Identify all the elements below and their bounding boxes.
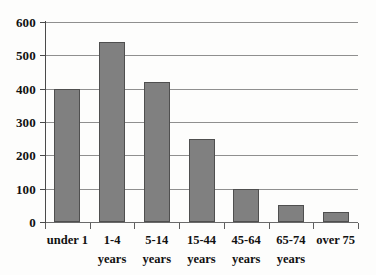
y-axis-tick-label: 500 <box>2 49 36 62</box>
bar <box>233 189 259 222</box>
bar <box>278 205 304 222</box>
x-axis-category-line1: under 1 <box>47 233 88 247</box>
x-axis-tick-mark <box>269 223 270 229</box>
x-axis-category-label: over 75 <box>313 231 358 250</box>
x-axis-category-line2: years <box>90 250 135 269</box>
x-axis-category-label: 5-14years <box>134 231 179 269</box>
x-axis-category-line1: 15-44 <box>187 233 216 247</box>
bars-layer <box>45 22 358 222</box>
x-axis-category-label: 1-4years <box>90 231 135 269</box>
x-axis-tick-mark <box>134 223 135 229</box>
y-axis-tick-label: 400 <box>2 83 36 96</box>
x-axis-category-line2: years <box>134 250 179 269</box>
x-axis-category-line1: 45-64 <box>232 233 261 247</box>
x-axis-category-label: under 1 <box>45 231 90 250</box>
x-axis-category-label: 15-44years <box>179 231 224 269</box>
bar-chart: 6005004003002001000 under 11-4years5-14y… <box>0 0 376 275</box>
x-axis-category-line2: years <box>269 250 314 269</box>
x-axis-category-line1: over 75 <box>316 233 355 247</box>
x-axis-category-line1: 65-74 <box>276 233 305 247</box>
bar <box>54 89 80 222</box>
x-axis-category-line2: years <box>179 250 224 269</box>
bar <box>323 212 349 222</box>
x-axis-category-line1: 1-4 <box>104 233 121 247</box>
bar <box>189 139 215 222</box>
x-axis-tick-mark <box>90 223 91 229</box>
x-axis-category-label: 45-64years <box>224 231 269 269</box>
y-axis-tick-label: 300 <box>2 116 36 129</box>
x-axis-tick-mark <box>224 223 225 229</box>
x-axis-tick-mark <box>45 223 46 229</box>
x-axis-tick-mark <box>313 223 314 229</box>
y-axis-tick-label: 0 <box>2 216 36 229</box>
x-axis-tick-mark <box>358 223 359 229</box>
x-axis-labels: under 11-4years5-14years15-44years45-64y… <box>45 231 358 275</box>
y-axis-tick-label: 600 <box>2 16 36 29</box>
x-axis-tick-mark <box>179 223 180 229</box>
x-axis-category-line1: 5-14 <box>145 233 168 247</box>
bar <box>99 42 125 222</box>
y-axis-tick-label: 100 <box>2 183 36 196</box>
y-axis-tick-label: 200 <box>2 149 36 162</box>
gridline-0 <box>45 222 358 223</box>
bar <box>144 82 170 222</box>
x-axis-category-label: 65-74years <box>269 231 314 269</box>
x-axis-category-line2: years <box>224 250 269 269</box>
